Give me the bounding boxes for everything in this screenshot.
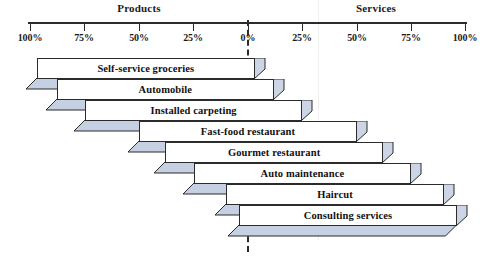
bar-3d-side bbox=[456, 205, 467, 226]
bar-label: Self-service groceries bbox=[37, 58, 255, 79]
bar-label: Installed carpeting bbox=[85, 100, 303, 121]
bar-3d-side bbox=[382, 142, 393, 163]
bar-row[interactable]: Automobile bbox=[57, 79, 275, 100]
bar-label: Consulting services bbox=[239, 205, 457, 226]
bar-label: Auto maintenance bbox=[194, 163, 412, 184]
bar-label: Fast-food restaurant bbox=[139, 121, 357, 142]
bar-row[interactable]: Auto maintenance bbox=[194, 163, 412, 184]
product-service-continuum-chart: Products Services 100%75%50%25%0%25%50%7… bbox=[0, 0, 497, 263]
bar-3d-side bbox=[410, 163, 421, 184]
bar-3d-side bbox=[254, 58, 265, 79]
bar-row[interactable]: Consulting services bbox=[239, 205, 457, 226]
bar-3d-side bbox=[443, 184, 454, 205]
bar-label: Automobile bbox=[57, 79, 275, 100]
bar-label: Haircut bbox=[226, 184, 444, 205]
bar-3d-shadow bbox=[228, 225, 446, 236]
bar-label: Gourmet restaurant bbox=[165, 142, 383, 163]
bar-row[interactable]: Haircut bbox=[226, 184, 444, 205]
bar-row[interactable]: Self-service groceries bbox=[37, 58, 255, 79]
bar-3d-side bbox=[301, 100, 312, 121]
bar-3d-side bbox=[273, 79, 284, 100]
bar-row[interactable]: Fast-food restaurant bbox=[139, 121, 357, 142]
bar-3d-side bbox=[356, 121, 367, 142]
bar-row[interactable]: Gourmet restaurant bbox=[165, 142, 383, 163]
bar-row[interactable]: Installed carpeting bbox=[85, 100, 303, 121]
